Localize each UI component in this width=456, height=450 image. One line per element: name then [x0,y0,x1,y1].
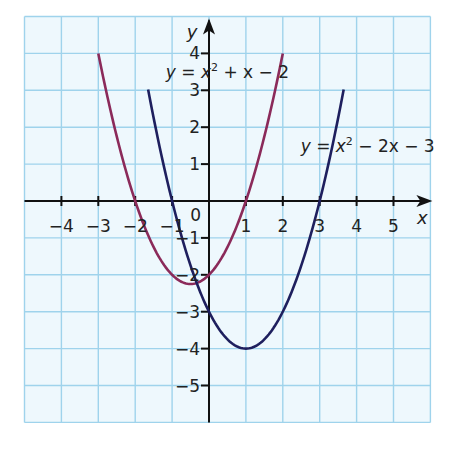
x-axis-label: x [416,207,428,228]
equation-exponent: 2 [211,61,218,74]
graph-figure: −4−3−2−1123454321−1−2−3−4−50xyy = x2 + x… [0,0,456,450]
equation-equals: = [176,62,201,82]
y-axis-label: y [186,21,198,42]
x-tick-label: −3 [86,216,111,236]
equation-exponent: 2 [346,135,353,148]
equation-rest: + x − 2 [218,62,289,82]
x-tick-label: 4 [351,216,362,236]
x-tick-label: 3 [314,216,325,236]
x-tick-label: −2 [123,216,148,236]
x-tick-label: 5 [388,216,399,236]
equation-label-1: y = x2 + x − 2 [165,61,289,82]
y-tick-label: 3 [189,80,200,100]
y-tick-label: −5 [175,376,200,396]
equation-equals: = [311,136,336,156]
coordinate-plane: −4−3−2−1123454321−1−2−3−4−50xyy = x2 + x… [0,0,456,450]
equation-rest: − 2x − 3 [353,136,435,156]
y-tick-label: −3 [175,302,200,322]
equation-label-2: y = x2 − 2x − 3 [300,135,435,156]
origin-label: 0 [190,205,201,225]
x-tick-label: −4 [49,216,74,236]
y-tick-label: −1 [175,228,200,248]
x-tick-label: 1 [240,216,251,236]
y-tick-label: −2 [175,265,200,285]
x-tick-label: 2 [277,216,288,236]
y-tick-label: 4 [189,43,200,63]
y-tick-label: 2 [189,117,200,137]
y-tick-label: −4 [175,339,200,359]
y-tick-label: 1 [189,154,200,174]
